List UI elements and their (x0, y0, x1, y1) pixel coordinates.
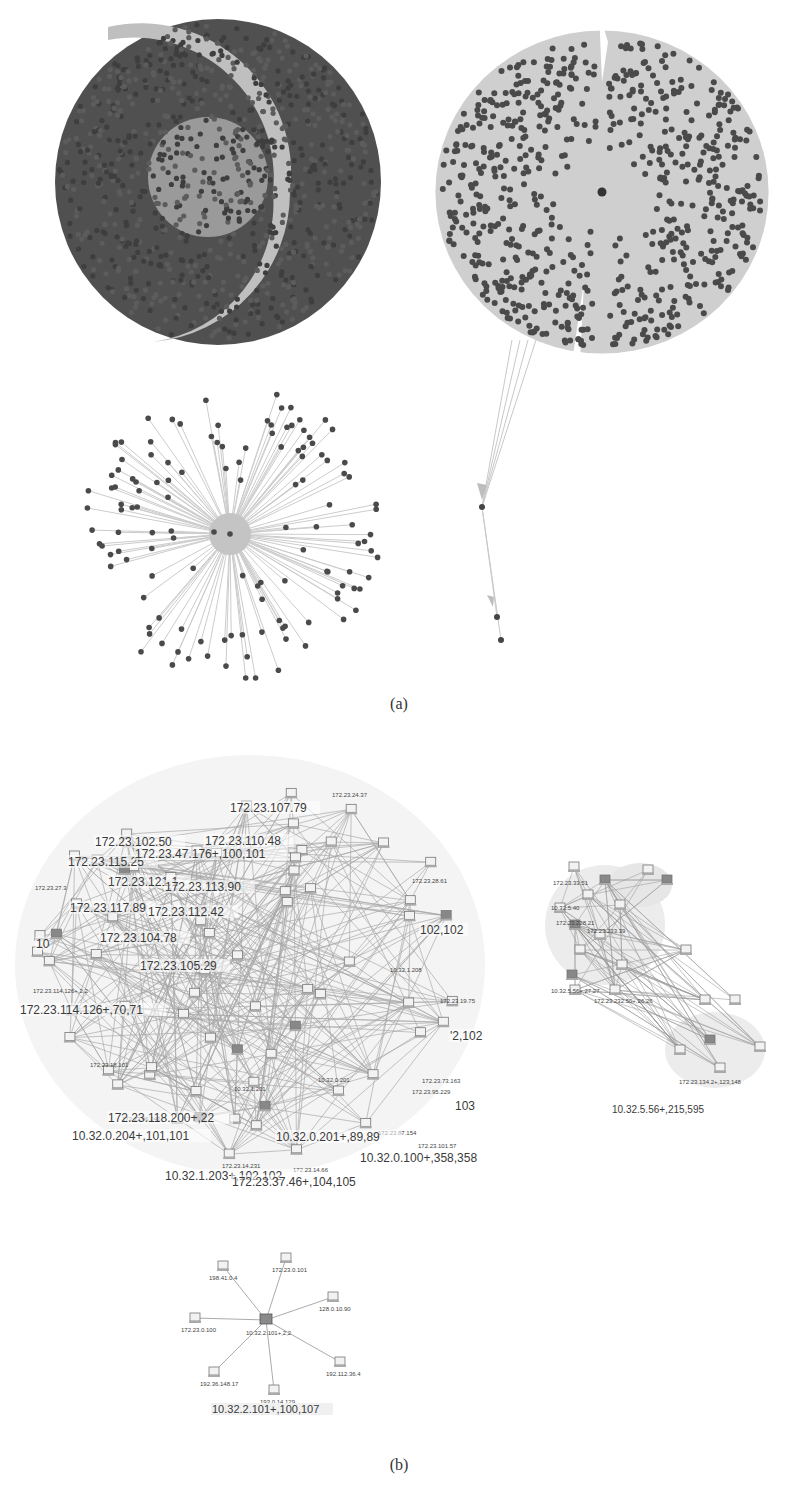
node-label: 172.23.118.200+,22 (108, 1111, 215, 1125)
leaf-node-label: 192.36.148.17 (200, 1381, 239, 1387)
node-label: 103 (455, 1099, 475, 1113)
computer-icon (414, 1028, 426, 1038)
computer-icon (287, 819, 299, 829)
computer-icon (566, 970, 578, 980)
computer-icon (279, 887, 291, 897)
node-label-small: 172.23.27.3 (35, 885, 67, 891)
computer-icon (404, 896, 416, 906)
computer-icon (217, 1261, 229, 1271)
computer-icon (178, 1009, 190, 1019)
node-label: 10.32.0.100+,358,358 (360, 1151, 477, 1165)
computer-icon (377, 838, 389, 848)
computer-icon (190, 1087, 202, 1097)
computer-icon (259, 1101, 271, 1111)
computer-icon (50, 929, 62, 939)
computer-icon (290, 853, 302, 863)
computer-icon (305, 884, 317, 894)
node-label: 172.23.113.90 (165, 880, 241, 894)
node-label: 102,102 (420, 923, 464, 937)
hub-computer-icon (260, 1314, 272, 1324)
computer-icon (223, 1149, 235, 1159)
computer-icon (285, 788, 297, 798)
computer-icon (754, 1042, 766, 1052)
computer-icon (268, 1385, 280, 1395)
node-label: 172.23.47.176+,100,101 (135, 847, 266, 861)
computer-icon (281, 898, 293, 908)
split-disc-graph (435, 12, 768, 643)
cluster-title: 10.32.2.101+,100,107 (212, 1403, 319, 1415)
computer-icon (699, 995, 711, 1005)
node-label: '2,102 (450, 1029, 483, 1043)
node-label: 172.23.115.25 (68, 855, 144, 869)
computer-icon (189, 988, 201, 998)
leaf-node-label: 128.0.10.90 (319, 1306, 351, 1312)
node-label-small: 172.23.228.21 (556, 920, 595, 926)
computer-icon (437, 1017, 449, 1027)
computer-icon (112, 1080, 124, 1090)
node-label-small: 172.23.233.39 (587, 928, 626, 934)
node-label: 172.23.112.42 (148, 905, 224, 919)
computer-icon (290, 1145, 302, 1155)
computer-icon (64, 1033, 76, 1043)
computer-icon (205, 1033, 217, 1043)
node-label-small: 10.32.1.201 (234, 1086, 266, 1092)
computer-icon (250, 1121, 262, 1131)
large-mesh-cluster: 172.23.27.3172.23.114.126+,2,2172.23.18.… (15, 755, 499, 1189)
computer-icon (302, 984, 314, 994)
panel-b-graphs: 172.23.27.3172.23.114.126+,2,2172.23.18.… (0, 740, 798, 1450)
node-label-small: 10.32.5.56+,27,27 (551, 988, 600, 994)
node-label-small: 172.23.134.2+,123,148 (679, 1079, 742, 1085)
computer-icon (574, 945, 586, 955)
computer-icon (231, 1045, 243, 1055)
node-label-small: 10.32.1.208 (390, 967, 422, 973)
computer-icon (704, 1035, 716, 1045)
leaf-node-label: 198.41.0.4 (209, 1275, 238, 1281)
computer-icon (145, 1063, 157, 1073)
computer-icon (203, 928, 215, 938)
caption-b: (b) (369, 1456, 429, 1474)
caption-a: (a) (369, 695, 429, 713)
computer-icon (43, 956, 55, 966)
node-label-small: 172.23.232.50+,26,26 (594, 998, 653, 1004)
computer-icon (360, 1118, 372, 1128)
node-label-small: 172.23.19.75 (440, 998, 476, 1004)
computer-icon (680, 945, 692, 955)
computer-icon (614, 900, 626, 910)
panel-a-graphs (0, 0, 798, 690)
computer-icon (425, 857, 437, 867)
computer-icon (403, 998, 415, 1008)
computer-icon (334, 1357, 346, 1367)
computer-icon (289, 1021, 301, 1031)
computer-icon (208, 1367, 220, 1377)
node-label: 172.23.107.79 (230, 801, 307, 815)
computer-icon (616, 960, 628, 970)
panel-b: 172.23.27.3172.23.114.126+,2,2172.23.18.… (0, 740, 798, 1450)
node-label-small: 172.23.114.126+,2,2 (33, 988, 88, 994)
panel-a (0, 0, 798, 690)
computer-icon (325, 837, 337, 847)
sparse-star-graph (85, 392, 381, 681)
computer-icon (314, 990, 326, 1000)
computer-icon (404, 911, 416, 921)
computer-icon (288, 866, 300, 876)
computer-icon (599, 875, 611, 885)
node-label: 10 (36, 937, 50, 951)
computer-icon (440, 911, 452, 921)
node-label: 10.32.0.204+,101,101 (72, 1129, 189, 1143)
computer-icon (332, 1086, 344, 1096)
computer-icon (345, 804, 357, 814)
node-label-small: 172.23.95.229 (412, 1089, 451, 1095)
computer-icon (249, 1002, 261, 1012)
computer-icon (729, 995, 741, 1005)
dense-ring-graph (48, 12, 381, 345)
node-label-small: 172.23.101.57 (418, 1143, 457, 1149)
node-label-small: 172.23.33.51 (553, 880, 589, 886)
cluster-title: 10.32.5.56+,215,595 (612, 1104, 704, 1115)
computer-icon (582, 890, 594, 900)
leaf-node-label: 172.23.0.101 (272, 1267, 308, 1273)
node-label: 172.23.105.29 (140, 959, 217, 973)
computer-icon (327, 1292, 339, 1302)
computer-icon (232, 951, 244, 961)
computer-icon (674, 1045, 686, 1055)
node-label: 172.23.117.89 (70, 901, 146, 915)
